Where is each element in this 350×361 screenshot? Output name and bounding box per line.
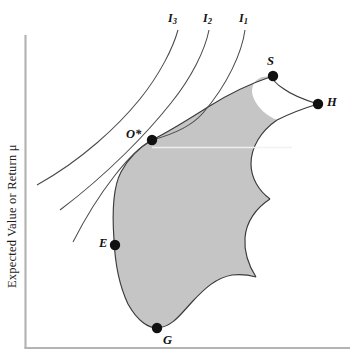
curve-label-I2: I2 — [203, 12, 212, 24]
feasible-region-shape — [113, 76, 277, 328]
point-label-G: G — [163, 334, 172, 347]
curve-label-I3: I3 — [168, 12, 177, 24]
point-label-H: H — [327, 96, 337, 109]
diagram-canvas — [0, 0, 350, 361]
curve-label-I3-base: I — [168, 11, 173, 25]
y-axis-label: Expected Value or Return μ — [4, 48, 20, 288]
curve-label-I2-sub: 2 — [208, 16, 212, 26]
curve-label-I1-sub: 1 — [244, 16, 248, 26]
curve-label-I2-base: I — [203, 11, 208, 25]
figure-root: Expected Value or Return μ I3 I2 I1 S H … — [0, 0, 350, 361]
point-marker-G[interactable] — [152, 323, 162, 333]
upper-right-notch-to-H — [277, 104, 318, 120]
point-label-O-star: O* — [126, 128, 141, 141]
point-marker-Ostar[interactable] — [147, 135, 157, 145]
point-label-E: E — [99, 237, 107, 250]
curve-label-I1-base: I — [239, 11, 244, 25]
point-marker-E[interactable] — [110, 240, 120, 250]
point-marker-S[interactable] — [268, 71, 278, 81]
curve-label-I3-sub: 3 — [173, 16, 177, 26]
point-marker-H[interactable] — [313, 99, 323, 109]
point-label-S: S — [267, 55, 274, 68]
feasible-region-group — [113, 76, 277, 328]
notch-H-to-S — [273, 76, 318, 104]
curve-label-I1: I1 — [239, 12, 248, 24]
